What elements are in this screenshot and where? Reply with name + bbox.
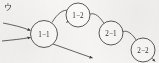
edge-incoming-lower — [2, 38, 31, 42]
edge-incoming-upper — [3, 23, 31, 31]
node-1-2-label: 1−2 — [72, 12, 84, 20]
node-1-1-label: 1−1 — [38, 31, 50, 39]
edge-n11-outgoing — [53, 44, 93, 58]
diagram-canvas: 1−1 1−2 2−1 2−2 ウ — [0, 0, 159, 63]
node-2-2-label: 2−2 — [137, 47, 149, 55]
node-2-1-label: 2−1 — [105, 30, 117, 38]
corner-mark-label: ウ — [4, 3, 12, 12]
node-graph-diagram: 1−1 1−2 2−1 2−2 ウ — [0, 0, 159, 63]
